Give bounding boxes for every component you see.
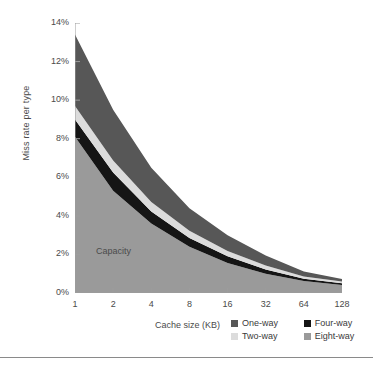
y-tick-label: 14% [35,18,69,27]
y-tick-label: 12% [35,57,69,66]
legend-item-two-way[interactable]: Two-way [231,331,297,341]
legend-label: Two-way [242,331,278,341]
x-tick-label: 1 [60,300,90,309]
legend-label: One-way [242,318,278,328]
legend-item-four-way[interactable]: Four-way [304,318,373,328]
bottom-divider [0,357,373,358]
legend-swatch-icon [231,333,238,340]
x-tick-label: 4 [136,300,166,309]
x-tick-label: 32 [251,300,281,309]
y-tick-label: 2% [35,249,69,258]
y-tick-label: 8% [35,134,69,143]
x-tick-label: 8 [174,300,204,309]
x-tick-label: 64 [289,300,319,309]
y-tick-label: 4% [35,211,69,220]
capacity-annotation: Capacity [96,246,131,256]
y-axis-title: Miss rate per type [21,53,31,193]
legend-swatch-icon [231,320,238,327]
legend-label: Eight-way [315,331,355,341]
y-tick-label: 10% [35,95,69,104]
y-tick-label: 0% [35,288,69,297]
legend-item-eight-way[interactable]: Eight-way [304,331,373,341]
legend-item-one-way[interactable]: One-way [231,318,297,328]
x-tick-label: 128 [327,300,357,309]
legend-swatch-icon [304,333,311,340]
legend-label: Four-way [315,318,353,328]
legend-swatch-icon [304,320,311,327]
x-tick-label: 16 [213,300,243,309]
chart-figure: Miss rate per type 0%2%4%6%8%10%12%14% 1… [0,0,373,369]
x-axis-title: Cache size (KB) [155,320,220,330]
y-tick-label: 6% [35,172,69,181]
chart-legend: One-wayFour-wayTwo-wayEight-way [231,318,373,341]
x-tick-label: 2 [98,300,128,309]
